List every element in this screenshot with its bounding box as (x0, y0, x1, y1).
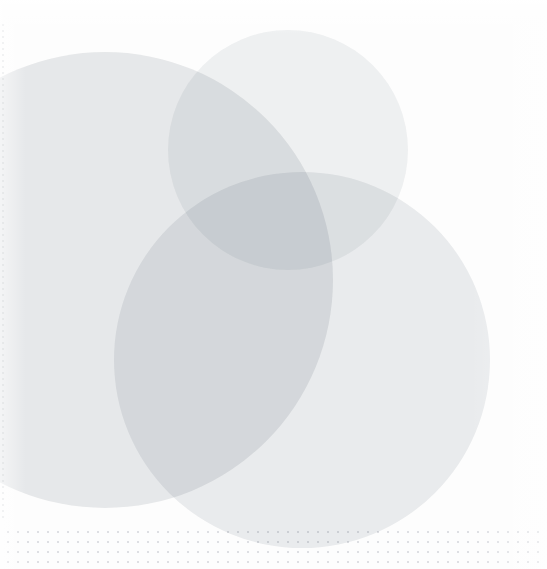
artwork-title: Abstract overlapping circles (0, 0, 1, 1)
dot-grid (0, 525, 547, 569)
circle-bottom-right (114, 172, 490, 548)
artwork-description: Three large translucent light-grey circl… (0, 0, 1, 1)
left-dotted-rule (2, 24, 4, 522)
top-fade-overlay (0, 0, 547, 34)
circle-top (168, 30, 408, 270)
edge-vignette-overlay (0, 0, 547, 569)
circle-left (0, 52, 333, 508)
artwork-canvas: Abstract overlapping circles Three large… (0, 0, 547, 569)
